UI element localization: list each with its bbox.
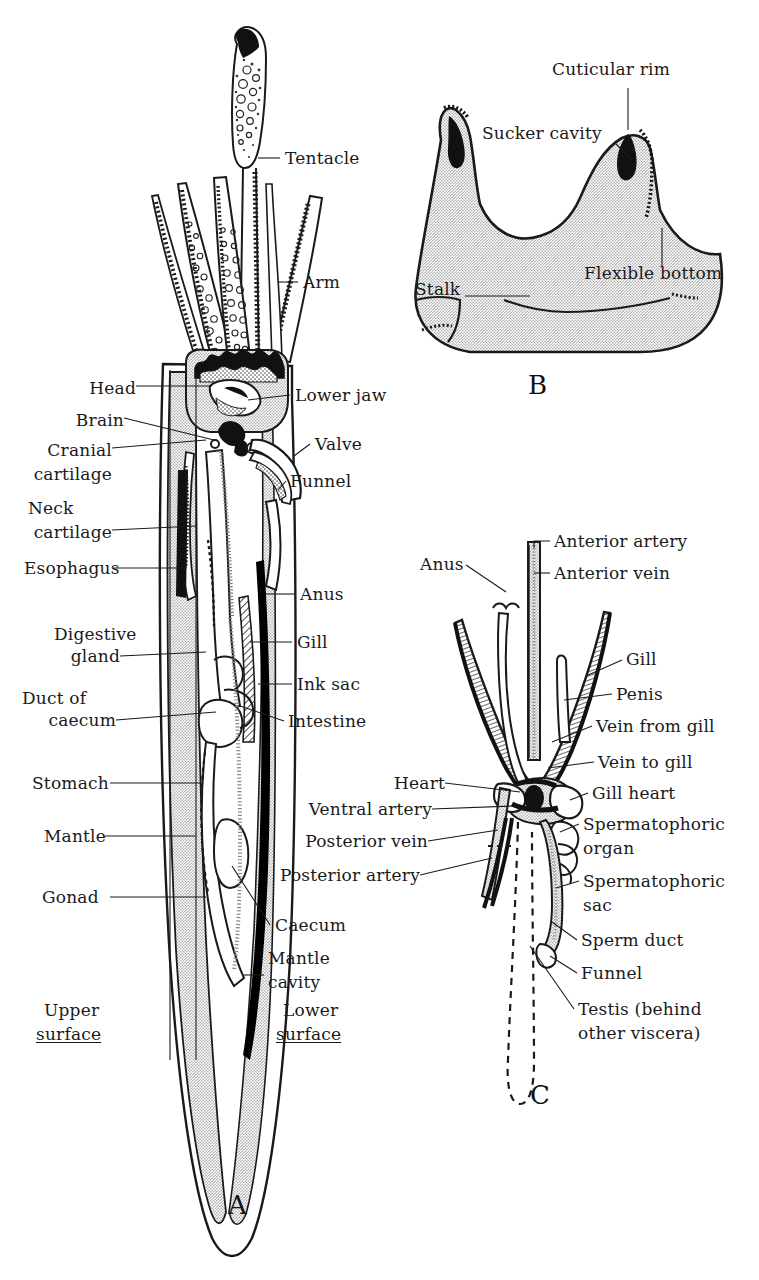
label-brain: Brain	[0, 412, 124, 429]
label-duct-of-caecum-line2: caecum	[0, 712, 116, 729]
label-gill-a: Gill	[297, 634, 328, 651]
label-mantle-cavity-line2: cavity	[268, 974, 320, 991]
arms	[152, 177, 322, 362]
label-spermatophoric-organ-line1: Spermatophoric	[583, 816, 725, 833]
label-mantle: Mantle	[44, 828, 106, 845]
label-arm: Arm	[303, 274, 340, 291]
label-funnel-a: Funnel	[290, 473, 351, 490]
label-vein-to-gill: Vein to gill	[598, 754, 693, 771]
label-spermatophoric-sac-line1: Spermatophoric	[583, 873, 725, 890]
label-esophagus: Esophagus	[24, 560, 120, 577]
label-posterior-vein: Posterior vein	[280, 833, 428, 850]
label-heart: Heart	[330, 775, 445, 792]
label-stomach: Stomach	[32, 775, 109, 792]
label-ink-sac: Ink sac	[297, 676, 360, 693]
label-upper-surface-line1: Upper	[44, 1002, 99, 1019]
panel-letter-c: C	[530, 1080, 550, 1110]
label-neck-cartilage-line2: cartilage	[0, 524, 112, 541]
label-caecum: Caecum	[275, 917, 346, 934]
label-gonad: Gonad	[42, 889, 99, 906]
label-duct-of-caecum-line1: Duct of	[22, 690, 86, 707]
label-posterior-artery: Posterior artery	[262, 867, 420, 884]
label-lower-surface-line1: Lower	[283, 1002, 338, 1019]
label-head: Head	[0, 380, 136, 397]
label-upper-surface-line2: surface	[36, 1026, 101, 1043]
label-vein-from-gill: Vein from gill	[596, 718, 715, 735]
panel-letter-b: B	[528, 370, 547, 400]
label-lower-surface-line2: surface	[276, 1026, 341, 1043]
label-cranial-cartilage-line1: Cranial	[0, 442, 112, 459]
label-anterior-vein: Anterior vein	[554, 565, 670, 582]
label-penis: Penis	[616, 686, 663, 703]
label-testis-line2: other viscera)	[578, 1025, 701, 1042]
label-anterior-artery: Anterior artery	[554, 533, 687, 550]
panel-a-artwork	[105, 27, 322, 1256]
label-gill-c: Gill	[626, 651, 657, 668]
label-testis-line1: Testis (behind	[578, 1001, 702, 1018]
anatomy-figure: Head Brain Cranial cartilage Neck cartil…	[0, 0, 759, 1280]
label-spermatophoric-sac-line2: sac	[583, 897, 612, 914]
label-valve: Valve	[315, 436, 362, 453]
label-cuticular-rim: Cuticular rim	[552, 61, 670, 78]
label-anus-c: Anus	[420, 556, 464, 573]
tentacle-club	[232, 27, 266, 168]
label-stalk: Stalk	[415, 281, 460, 298]
label-intestine: Intestine	[288, 713, 366, 730]
label-sucker-cavity: Sucker cavity	[482, 125, 602, 142]
label-digestive-gland-line1: Digestive	[54, 626, 136, 643]
label-flexible-bottom: Flexible bottom	[584, 265, 722, 282]
label-sperm-duct: Sperm duct	[581, 932, 683, 949]
label-ventral-artery: Ventral artery	[280, 801, 432, 818]
label-spermatophoric-organ-line2: organ	[583, 840, 634, 857]
label-tentacle: Tentacle	[285, 150, 360, 167]
label-digestive-gland-line2: gland	[0, 648, 120, 665]
panel-letter-a: A	[228, 1190, 247, 1220]
label-neck-cartilage-line1: Neck	[28, 500, 74, 517]
label-gill-heart: Gill heart	[592, 785, 675, 802]
label-anus-a: Anus	[300, 586, 344, 603]
label-cranial-cartilage-line2: cartilage	[0, 466, 112, 483]
label-funnel-c: Funnel	[581, 965, 642, 982]
label-lower-jaw: Lower jaw	[295, 387, 386, 404]
label-mantle-cavity-line1: Mantle	[268, 950, 330, 967]
